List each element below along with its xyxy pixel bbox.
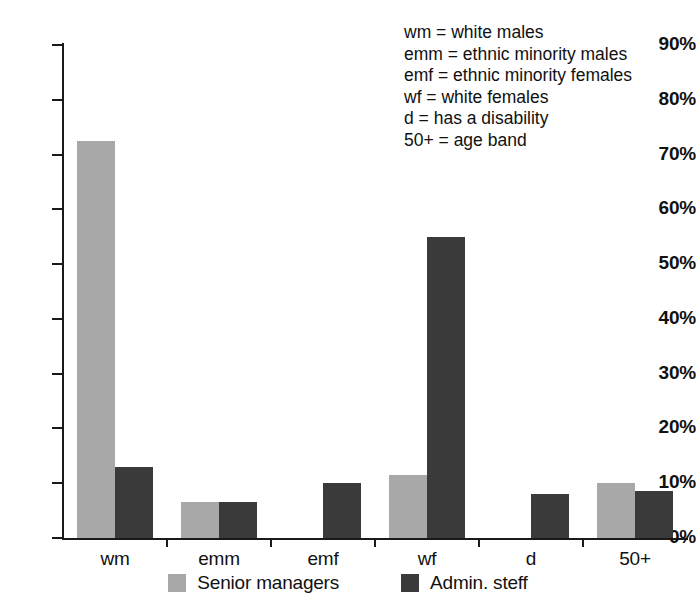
x-axis-label-d: d xyxy=(479,548,583,570)
abbreviation-key-line-4: wf = white females xyxy=(404,87,632,109)
y-axis-tick xyxy=(52,263,63,265)
bar-emm-admin-staff xyxy=(219,502,257,538)
y-axis-tick xyxy=(52,208,63,210)
y-axis-tick xyxy=(52,537,63,539)
abbreviation-key-line-5: d = has a disability xyxy=(404,108,632,130)
bar-50+-senior-managers xyxy=(597,483,635,538)
y-axis-tick xyxy=(52,99,63,101)
abbreviation-key-line-3: emf = ethnic minority females xyxy=(404,65,632,87)
abbreviation-key-line-1: wm = white males xyxy=(404,22,632,44)
legend-swatch-icon xyxy=(168,574,186,592)
legend-entry-senior-managers: Senior managers xyxy=(168,572,339,594)
x-axis-tick xyxy=(270,538,272,547)
bar-wm-admin-staff xyxy=(115,467,153,538)
legend-entry-admin-staff: Admin. steff xyxy=(401,572,528,594)
abbreviation-key: wm = white malesemm = ethnic minority ma… xyxy=(404,22,632,151)
x-axis-label-50+: 50+ xyxy=(583,548,687,570)
bar-d-admin-staff xyxy=(531,494,569,538)
y-axis-tick xyxy=(52,154,63,156)
y-axis-tick xyxy=(52,44,63,46)
x-axis-label-emm: emm xyxy=(167,548,271,570)
bar-chart: 0%10%20%30%40%50%60%70%80%90% wmemmemfwf… xyxy=(0,0,696,616)
abbreviation-key-line-6: 50+ = age band xyxy=(404,130,632,152)
y-axis-tick xyxy=(52,427,63,429)
x-axis-tick xyxy=(166,538,168,547)
bar-50+-admin-staff xyxy=(635,491,673,538)
x-axis-label-wm: wm xyxy=(63,548,167,570)
y-axis-tick xyxy=(52,373,63,375)
legend-label: Admin. steff xyxy=(430,572,528,594)
abbreviation-key-line-2: emm = ethnic minority males xyxy=(404,44,632,66)
x-axis-tick xyxy=(374,538,376,547)
legend-label: Senior managers xyxy=(197,572,339,594)
legend-swatch-icon xyxy=(401,574,419,592)
y-axis-tick xyxy=(52,482,63,484)
bar-wf-senior-managers xyxy=(389,475,427,538)
x-axis-tick xyxy=(478,538,480,547)
bar-wf-admin-staff xyxy=(427,237,465,538)
bar-wm-senior-managers xyxy=(77,141,115,538)
chart-legend: Senior managersAdmin. steff xyxy=(0,572,696,594)
x-axis-label-wf: wf xyxy=(375,548,479,570)
bar-emm-senior-managers xyxy=(181,502,219,538)
bar-emf-admin-staff xyxy=(323,483,361,538)
x-axis-label-emf: emf xyxy=(271,548,375,570)
x-axis-tick xyxy=(582,538,584,547)
y-axis-tick xyxy=(52,318,63,320)
